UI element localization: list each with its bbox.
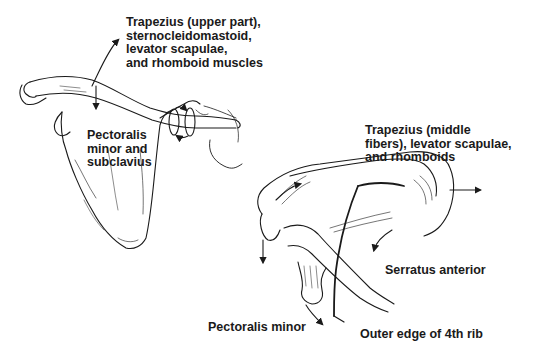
label-serratus-anterior: Serratus anterior (385, 264, 486, 278)
label-trapezius-upper: Trapezius (upper part), sternocleidomast… (126, 16, 263, 70)
anatomy-illustration (0, 0, 541, 350)
label-trapezius-middle: Trapezius (middle fibers), levator scapu… (365, 124, 512, 165)
label-pectoralis-minor-subclavius: Pectoralis minor and subclavius (87, 129, 152, 170)
diagram-canvas: Trapezius (upper part), sternocleidomast… (0, 0, 541, 350)
label-outer-edge-4th-rib: Outer edge of 4th rib (360, 328, 483, 342)
right-clavicle-coracoid (284, 225, 394, 312)
rib-line (334, 186, 358, 316)
label-pectoralis-minor: Pectoralis minor (208, 321, 306, 335)
